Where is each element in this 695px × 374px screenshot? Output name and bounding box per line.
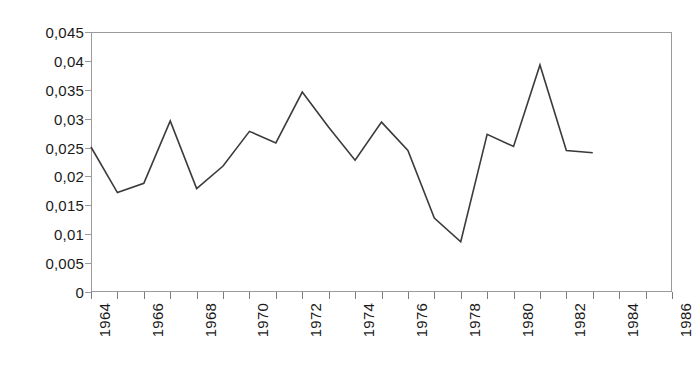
y-tick-mark	[85, 148, 92, 149]
y-tick-mark	[85, 61, 92, 62]
y-tick-mark	[85, 119, 92, 120]
x-tick-mark	[197, 292, 198, 299]
x-tick-label: 1970	[255, 303, 270, 337]
y-tick-label: 0,035	[0, 82, 84, 97]
x-tick-mark	[302, 292, 303, 299]
y-axis: 0,0450,040,0350,030,0250,020,0150,010,00…	[0, 32, 84, 292]
x-tick-mark	[117, 292, 118, 299]
x-tick-mark	[144, 292, 145, 299]
x-tick-mark	[672, 292, 673, 299]
x-tick-mark	[566, 292, 567, 299]
x-tick-label: 1974	[361, 303, 376, 337]
x-tick-label: 1976	[414, 303, 429, 337]
x-tick-mark	[170, 292, 171, 299]
y-tick-mark	[85, 176, 92, 177]
x-tick-mark	[223, 292, 224, 299]
y-tick-label: 0,005	[0, 256, 84, 271]
y-tick-mark	[85, 234, 92, 235]
line-chart: 0,0450,040,0350,030,0250,020,0150,010,00…	[0, 0, 695, 374]
y-tick-label: 0,04	[0, 53, 84, 68]
x-tick-mark	[646, 292, 647, 299]
x-tick-mark	[514, 292, 515, 299]
x-tick-label: 1966	[150, 303, 165, 337]
x-tick-label: 1986	[678, 303, 693, 337]
x-tick-mark	[461, 292, 462, 299]
y-tick-label: 0,015	[0, 198, 84, 213]
plot-area	[91, 32, 672, 292]
y-tick-mark	[85, 263, 92, 264]
x-tick-mark	[593, 292, 594, 299]
x-tick-label: 1968	[203, 303, 218, 337]
x-tick-label: 1978	[467, 303, 482, 337]
y-tick-label: 0	[0, 285, 84, 300]
x-tick-mark	[249, 292, 250, 299]
y-tick-label: 0,01	[0, 227, 84, 242]
x-tick-mark	[91, 292, 92, 299]
x-tick-mark	[434, 292, 435, 299]
x-tick-mark	[329, 292, 330, 299]
y-tick-label: 0,045	[0, 25, 84, 40]
x-tick-label: 1964	[97, 303, 112, 337]
y-tick-label: 0,02	[0, 169, 84, 184]
x-tick-mark	[540, 292, 541, 299]
x-tick-mark	[276, 292, 277, 299]
x-tick-mark	[619, 292, 620, 299]
y-tick-mark	[85, 32, 92, 33]
y-tick-label: 0,025	[0, 140, 84, 155]
y-tick-label: 0,03	[0, 111, 84, 126]
x-tick-mark	[487, 292, 488, 299]
y-tick-mark	[85, 90, 92, 91]
x-tick-label: 1972	[308, 303, 323, 337]
x-tick-label: 1980	[520, 303, 535, 337]
y-tick-mark	[85, 205, 92, 206]
x-tick-mark	[382, 292, 383, 299]
x-tick-label: 1984	[625, 303, 640, 337]
x-tick-mark	[408, 292, 409, 299]
x-tick-label: 1982	[572, 303, 587, 337]
x-tick-mark	[355, 292, 356, 299]
